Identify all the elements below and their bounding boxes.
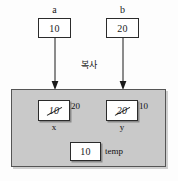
variable-box-y: 20 [106, 100, 138, 121]
variable-y-old-value: 20 [117, 105, 128, 116]
variable-y-new-value: 10 [139, 101, 148, 111]
arrow-a-to-x-icon [50, 38, 60, 90]
variable-x-new-value: 20 [71, 101, 80, 111]
diagram-canvas: a 10 b 20 복사 10 20 x 20 10 y 10 temp [0, 0, 178, 181]
copy-caption-label: 복사 [68, 58, 110, 71]
variable-label-a: a [38, 4, 71, 15]
variable-label-y: y [106, 122, 138, 132]
variable-box-a: 10 [38, 18, 71, 38]
arrow-b-to-y-icon [118, 38, 128, 90]
variable-label-temp: temp [105, 146, 123, 156]
variable-label-x: x [38, 122, 70, 132]
variable-box-b: 20 [106, 18, 139, 38]
variable-box-temp: 10 [70, 142, 101, 161]
variable-label-b: b [106, 4, 139, 15]
variable-x-old-value: 10 [49, 105, 60, 116]
variable-box-x: 10 [38, 100, 70, 121]
